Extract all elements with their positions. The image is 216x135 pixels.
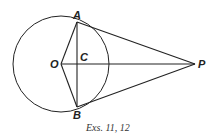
label-b: B [73, 109, 81, 121]
tangent-bp [77, 64, 195, 107]
label-o: O [50, 58, 59, 70]
segment-oa [61, 22, 77, 64]
segment-ob [61, 64, 77, 107]
label-p: P [198, 58, 206, 70]
caption: Exs. 11, 12 [85, 122, 130, 133]
label-c: C [80, 51, 89, 63]
tangent-ap [77, 22, 195, 64]
geometry-diagram: A B C O P Exs. 11, 12 [0, 0, 216, 135]
label-a: A [72, 9, 81, 21]
